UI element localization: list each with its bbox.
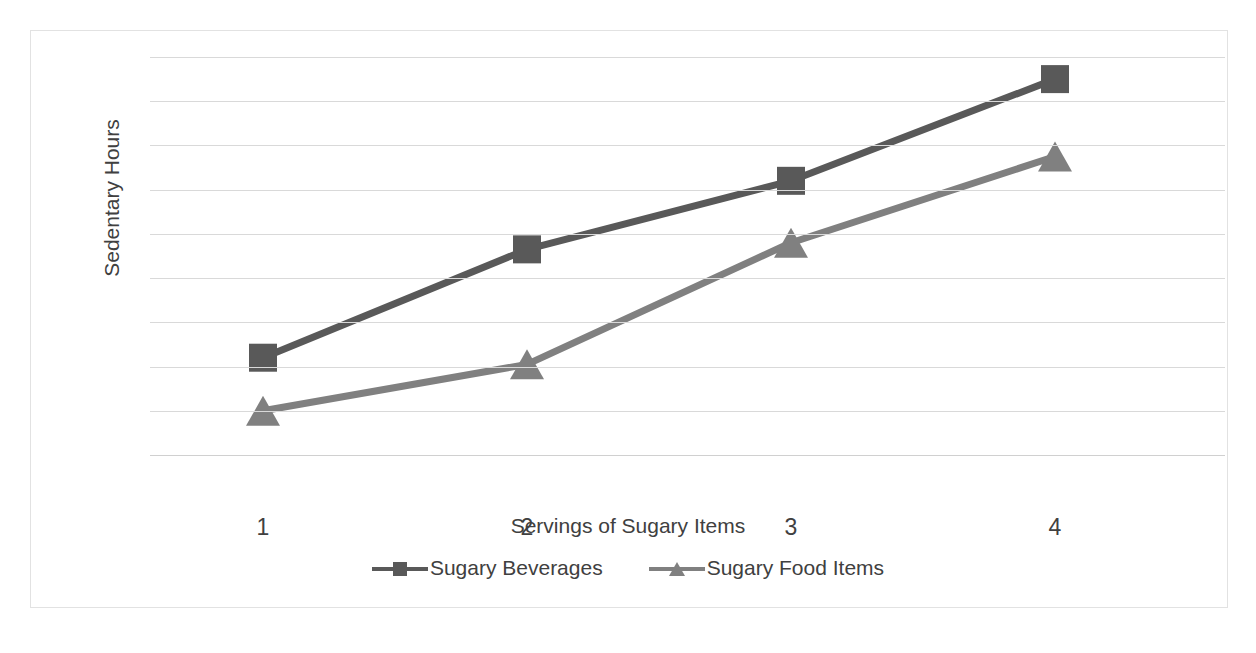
gridline-y-8 [150,101,1225,102]
gridline-y-3 [150,322,1225,323]
legend-item-0[interactable]: Sugary Beverages [372,556,603,580]
legend-triangle-marker [669,562,685,576]
data-point-marker [774,228,808,258]
gridline-y-9 [150,57,1225,58]
chart-title [0,0,1256,2]
triangle-marker [649,558,705,578]
series-line-0 [263,79,1055,358]
gridline-y-7 [150,145,1225,146]
series-line-1 [263,157,1055,411]
data-point-marker [513,235,541,263]
y-axis-title: Sedentary Hours [100,48,124,348]
gridline-y-1 [150,411,1225,412]
data-point-marker [1041,65,1069,93]
plot-area: 98765432101234 [150,50,1225,455]
series-plot-layer [150,50,1225,455]
gridline-y-0 [150,455,1225,456]
legend-item-1[interactable]: Sugary Food Items [649,556,884,580]
gridline-y-5 [150,234,1225,235]
gridline-y-4 [150,278,1225,279]
square-marker [372,558,428,578]
gridline-y-2 [150,367,1225,368]
gridline-y-6 [150,190,1225,191]
legend-square-marker [393,562,407,576]
chart-legend: Sugary BeveragesSugary Food Items [0,556,1256,580]
legend-label: Sugary Beverages [430,556,603,580]
legend-label: Sugary Food Items [707,556,884,580]
x-axis-title: Servings of Sugary Items [0,514,1256,538]
